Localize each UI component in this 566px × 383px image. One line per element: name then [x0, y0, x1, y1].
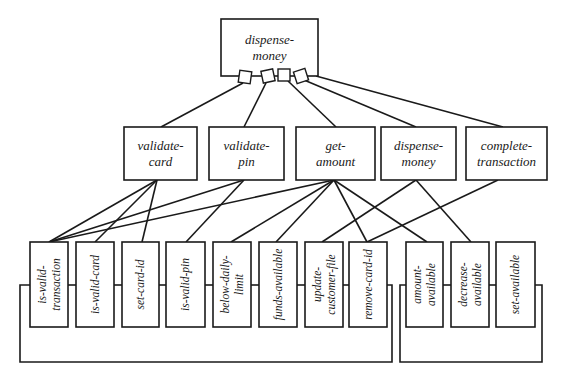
node-label: complete- — [481, 138, 532, 153]
node-is-valid-transaction[interactable]: is-valid-transaction — [30, 242, 68, 327]
edge-dispense-money-2-to-update-customer-file — [322, 180, 416, 242]
node-label: amount- — [411, 265, 423, 304]
node-label: dispense- — [245, 32, 294, 47]
node-get-amount[interactable]: get-amount — [296, 127, 375, 180]
edge-get-amount-to-is-valid-transaction — [49, 180, 334, 242]
edge-get-amount-to-funds-available — [276, 180, 334, 242]
node-set-available[interactable]: set-available — [496, 242, 535, 327]
node-label: dispense- — [394, 138, 443, 153]
node-label: amount — [316, 154, 355, 169]
edge-validate-card-to-is-valid-transaction — [49, 180, 157, 242]
node-label: decrease- — [457, 262, 469, 306]
node-label: remove-card-id — [362, 249, 374, 320]
node-complete-transaction[interactable]: complete-transaction — [466, 127, 547, 180]
node-set-card-id[interactable]: set-card-id — [122, 242, 159, 327]
node-label: pin — [237, 154, 255, 169]
edge-c4-to-dispense-money-2 — [304, 80, 416, 127]
node-label: limit — [233, 273, 245, 295]
node-update-customer-file[interactable]: update-customer-file — [305, 242, 343, 327]
node-label: set-available — [509, 255, 521, 314]
node-label: is-valid-pin — [179, 258, 192, 311]
structure-chart: dispense-moneyvalidate-cardvalidate-ping… — [0, 0, 566, 383]
node-validate-pin[interactable]: validate-pin — [209, 127, 284, 180]
nodes: dispense-moneyvalidate-cardvalidate-ping… — [30, 19, 547, 327]
node-is-valid-pin[interactable]: is-valid-pin — [166, 242, 205, 327]
node-label: available — [425, 263, 437, 306]
edge-dispense-money-2-to-decrease-available — [416, 180, 471, 242]
node-validate-card[interactable]: validate-card — [124, 127, 197, 180]
edge-c1-to-validate-card — [161, 83, 243, 127]
node-label: money — [402, 154, 436, 169]
node-remove-card-id[interactable]: remove-card-id — [349, 242, 387, 327]
node-label: validate- — [137, 138, 183, 153]
edge-root-to-complete-transaction — [316, 76, 503, 127]
edge-get-amount-to-remove-card-id — [334, 180, 367, 242]
node-label: card — [149, 154, 173, 169]
node-label: available — [471, 263, 483, 306]
node-decrease-available[interactable]: decrease-available — [451, 242, 489, 327]
node-label: funds-available — [272, 249, 285, 321]
node-label: get- — [325, 138, 345, 153]
node-label: customer-file — [325, 254, 338, 314]
connector-square-icon — [278, 69, 290, 81]
node-label: transaction — [477, 154, 536, 169]
node-dispense-money-2[interactable]: dispense-money — [381, 127, 456, 180]
node-funds-available[interactable]: funds-available — [259, 242, 297, 327]
node-is-valid-card[interactable]: is-valid-card — [76, 242, 114, 327]
node-amount-available[interactable]: amount-available — [406, 242, 443, 327]
node-label: update- — [311, 267, 324, 302]
connector-square-icon — [238, 70, 252, 84]
connector-square-icon — [293, 68, 308, 83]
edge-get-amount-to-amount-available — [334, 180, 427, 242]
node-label: money — [253, 48, 287, 63]
node-label: below-daily- — [219, 255, 232, 313]
node-label: validate- — [223, 138, 269, 153]
node-label: transaction — [50, 258, 62, 311]
connector-square-icon — [261, 69, 275, 83]
node-label: set-card-id — [134, 259, 146, 309]
edge-c3-to-get-amount — [288, 81, 336, 127]
edge-complete-transaction-to-remove-card-id — [367, 180, 498, 242]
edge-c2-to-validate-pin — [244, 83, 266, 127]
node-label: is-valid- — [36, 265, 48, 303]
node-below-daily-limit[interactable]: below-daily-limit — [213, 242, 251, 327]
node-label: is-valid-card — [89, 255, 101, 314]
edge-get-amount-to-below-daily-limit — [231, 180, 334, 242]
node-root[interactable]: dispense-money — [221, 19, 318, 76]
